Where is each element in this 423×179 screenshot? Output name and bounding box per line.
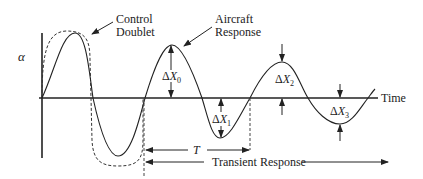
- delta-x0-label: ΔX0: [162, 70, 181, 87]
- aircraft-response-label-line2: Response: [215, 26, 261, 39]
- time-axis-label: Time: [381, 92, 406, 105]
- response-diagram: [0, 0, 423, 179]
- aircraft-response-curve: [42, 33, 375, 156]
- delta-x1-label: ΔX1: [212, 113, 231, 130]
- delta-x2-label: ΔX2: [275, 73, 294, 90]
- alpha-axis-label: α: [18, 50, 25, 63]
- control-doublet-arrow: [92, 22, 113, 34]
- period-label: T: [193, 144, 200, 157]
- control-doublet-label-line2: Doublet: [116, 26, 155, 39]
- aircraft-response-arrow: [184, 27, 212, 46]
- delta-x3-label: ΔX3: [330, 105, 349, 122]
- transient-response-label: Transient Response: [212, 156, 306, 169]
